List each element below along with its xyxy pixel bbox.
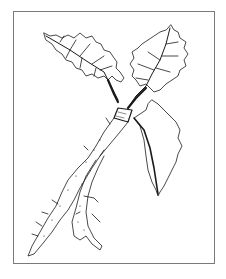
left-leaf <box>44 33 124 102</box>
lower-leaf <box>134 100 182 196</box>
root <box>28 118 128 256</box>
right-leaf <box>128 25 188 108</box>
plant-illustration <box>0 0 226 279</box>
crown <box>114 108 132 122</box>
